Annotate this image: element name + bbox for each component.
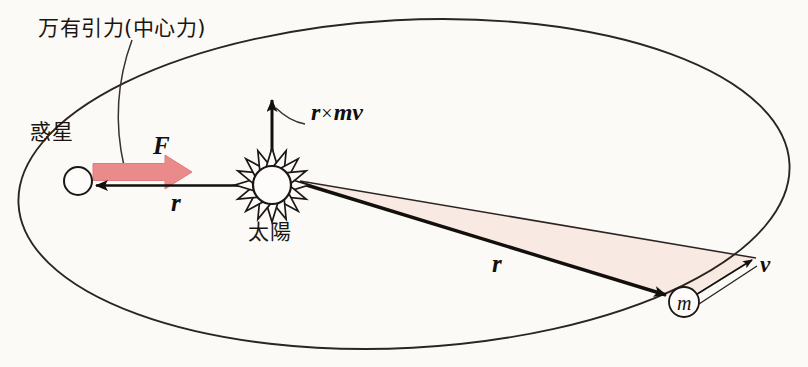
planet-label: 惑星 xyxy=(30,122,73,143)
velocity-vector-label: v xyxy=(760,253,770,276)
sun-body xyxy=(253,166,291,204)
mass-label: m xyxy=(677,293,691,313)
angular-momentum-label: r×mv xyxy=(311,100,363,124)
gravity-note-label: 万有引力(中心力) xyxy=(38,18,206,39)
planet-body xyxy=(64,167,92,195)
force-arrow-F xyxy=(93,155,192,189)
radius-vector-right-label: r xyxy=(492,251,502,276)
angular-momentum-r-symbol: r xyxy=(311,99,320,125)
cross-product-symbol: × xyxy=(320,102,333,124)
angular-momentum-mv-symbol: mv xyxy=(334,99,363,125)
gravity-note-leader-line xyxy=(118,40,132,166)
force-vector-label: F xyxy=(153,133,170,158)
kepler-angular-momentum-diagram: 万有引力(中心力) 惑星 太陽 F r r v m r×mv xyxy=(0,0,808,367)
radius-vector-left-label: r xyxy=(171,190,181,215)
sun-label: 太陽 xyxy=(248,222,291,243)
angular-momentum-leader-line xyxy=(276,108,305,124)
